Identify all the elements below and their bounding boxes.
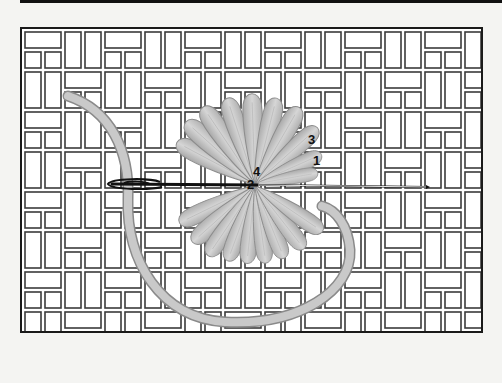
stitch-number-3: 3 (308, 132, 315, 147)
illustration-page: 1 3 4 2 (0, 0, 502, 383)
stitch-number-1: 1 (313, 153, 320, 168)
embroidery-diagram: 1 3 4 2 (0, 0, 502, 383)
stitch-number-2: 2 (247, 177, 254, 192)
